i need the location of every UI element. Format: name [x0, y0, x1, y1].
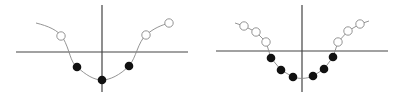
potential-well-diagrams: [0, 0, 401, 96]
left-potential-well: [16, 5, 188, 92]
open-point: [165, 19, 173, 27]
filled-point: [125, 62, 134, 71]
open-point: [142, 31, 150, 39]
filled-point: [309, 72, 318, 81]
right-potential-well: [216, 5, 388, 92]
open-point: [57, 32, 65, 40]
filled-point: [329, 53, 338, 62]
filled-point: [277, 66, 286, 75]
filled-point: [267, 54, 276, 63]
open-point: [240, 22, 248, 30]
open-point: [344, 27, 352, 35]
filled-point: [320, 65, 329, 74]
open-point: [356, 20, 364, 28]
open-point: [334, 38, 342, 46]
filled-point: [98, 76, 107, 85]
open-point: [252, 28, 260, 36]
filled-point: [289, 73, 298, 82]
filled-point: [73, 63, 82, 72]
open-point: [262, 38, 270, 46]
